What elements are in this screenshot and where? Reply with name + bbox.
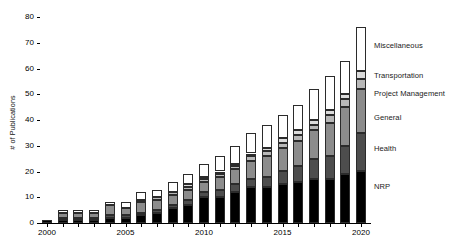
bar-segment-2014-nrp xyxy=(262,187,272,223)
bar-segment-2012-nrp xyxy=(230,192,240,223)
bar-segment-2007-nrp xyxy=(152,213,162,223)
bar-segment-2003-health xyxy=(89,218,99,221)
x-tickmark-2009 xyxy=(188,224,189,227)
bar-segment-2010-project-management xyxy=(199,179,209,182)
y-tickmark-60 xyxy=(37,69,40,70)
bar-2006 xyxy=(136,192,146,223)
x-tickmark-2007 xyxy=(157,224,158,227)
bar-segment-2001-miscellaneous xyxy=(58,210,68,213)
x-tick-2020: 2020 xyxy=(341,228,381,237)
bar-segment-2004-miscellaneous xyxy=(105,202,115,205)
legend-label-nrp: NRP xyxy=(374,182,390,191)
bar-segment-2015-miscellaneous xyxy=(278,115,288,138)
y-tick-70: 70 xyxy=(8,38,34,47)
x-tickmark-2010 xyxy=(204,224,205,227)
bar-segment-2016-miscellaneous xyxy=(293,105,303,131)
bar-segment-2008-general xyxy=(168,195,178,205)
x-tickmark-2018 xyxy=(330,224,331,227)
bar-segment-2012-miscellaneous xyxy=(230,146,240,164)
bar-segment-2006-nrp xyxy=(136,215,146,223)
x-tick-2000: 2000 xyxy=(27,228,67,237)
legend-label-health: Health xyxy=(374,144,396,153)
bar-segment-2006-general xyxy=(136,202,146,212)
bar-segment-2006-project-management xyxy=(136,200,146,203)
y-tickmark-70 xyxy=(37,43,40,44)
x-tickmark-2008 xyxy=(173,224,174,227)
y-tick-0: 0 xyxy=(8,218,34,227)
y-tick-80: 80 xyxy=(8,12,34,21)
y-tickmark-50 xyxy=(37,94,40,95)
bar-segment-2003-nrp xyxy=(89,220,99,223)
bar-segment-2013-transportation xyxy=(246,154,256,157)
bar-segment-2019-general xyxy=(340,107,350,146)
bar-segment-2002-miscellaneous xyxy=(73,210,83,213)
bar-segment-2019-health xyxy=(340,146,350,174)
bar-segment-2016-transportation xyxy=(293,130,303,135)
bar-2020 xyxy=(356,27,366,223)
bar-segment-2017-nrp xyxy=(309,179,319,223)
x-tickmark-2002 xyxy=(78,224,79,227)
bar-segment-2011-project-management xyxy=(215,174,225,177)
bar-2018 xyxy=(325,76,335,223)
x-tickmark-2000 xyxy=(47,224,48,227)
bar-2012 xyxy=(230,146,240,223)
x-tickmark-2003 xyxy=(94,224,95,227)
bar-2008 xyxy=(168,182,178,223)
bar-segment-2016-general xyxy=(293,141,303,167)
bar-segment-2012-health xyxy=(230,184,240,192)
bar-2009 xyxy=(183,174,193,223)
bar-2015 xyxy=(278,115,288,223)
bar-segment-2020-project-management xyxy=(356,79,366,89)
bar-segment-2018-miscellaneous xyxy=(325,76,335,109)
y-tick-20: 20 xyxy=(8,167,34,176)
bar-segment-2004-nrp xyxy=(105,218,115,223)
bar-segment-2007-general xyxy=(152,200,162,210)
bar-segment-2010-health xyxy=(199,192,209,197)
bar-segment-2005-general xyxy=(121,208,131,216)
bar-segment-2010-general xyxy=(199,182,209,192)
bar-segment-2014-project-management xyxy=(262,151,272,156)
y-tickmark-80 xyxy=(37,17,40,18)
bar-segment-2013-health xyxy=(246,179,256,187)
bar-segment-2017-general xyxy=(309,130,319,158)
legend-label-project-management: Project Management xyxy=(374,89,445,98)
bar-segment-2020-transportation xyxy=(356,71,366,79)
bar-2001 xyxy=(58,210,68,223)
bar-segment-2005-nrp xyxy=(121,218,131,223)
bar-2014 xyxy=(262,125,272,223)
x-tickmark-2015 xyxy=(283,224,284,227)
x-tickmark-2016 xyxy=(298,224,299,227)
bar-2007 xyxy=(152,190,162,223)
bar-segment-2009-miscellaneous xyxy=(183,174,193,184)
bar-segment-2015-transportation xyxy=(278,138,288,143)
bar-segment-2001-general xyxy=(58,213,68,218)
bar-segment-2012-general xyxy=(230,169,240,184)
bar-segment-2008-health xyxy=(168,205,178,208)
bar-segment-2011-transportation xyxy=(215,172,225,175)
bar-segment-2014-general xyxy=(262,156,272,177)
bar-segment-2000-nrp xyxy=(42,220,52,223)
x-tickmark-2004 xyxy=(110,224,111,227)
bar-segment-2016-health xyxy=(293,166,303,181)
bar-segment-2006-miscellaneous xyxy=(136,192,146,200)
bar-segment-2002-health xyxy=(73,218,83,221)
bar-segment-2013-project-management xyxy=(246,156,256,161)
x-tickmark-2019 xyxy=(345,224,346,227)
x-tickmark-2006 xyxy=(141,224,142,227)
bar-segment-2019-miscellaneous xyxy=(340,61,350,94)
bar-segment-2019-transportation xyxy=(340,94,350,99)
bar-segment-2007-miscellaneous xyxy=(152,190,162,198)
x-tickmark-2012 xyxy=(235,224,236,227)
bar-segment-2019-project-management xyxy=(340,99,350,107)
bar-segment-2008-project-management xyxy=(168,192,178,195)
bar-segment-2014-transportation xyxy=(262,148,272,151)
bar-segment-2020-miscellaneous xyxy=(356,27,366,71)
bar-2004 xyxy=(105,202,115,223)
bar-segment-2009-transportation xyxy=(183,184,193,187)
legend-label-transportation: Transportation xyxy=(374,71,423,80)
bar-segment-2020-health xyxy=(356,133,366,172)
bar-segment-2014-miscellaneous xyxy=(262,125,272,148)
bar-segment-2019-nrp xyxy=(340,174,350,223)
bar-segment-2017-miscellaneous xyxy=(309,89,319,120)
bar-2002 xyxy=(73,210,83,223)
